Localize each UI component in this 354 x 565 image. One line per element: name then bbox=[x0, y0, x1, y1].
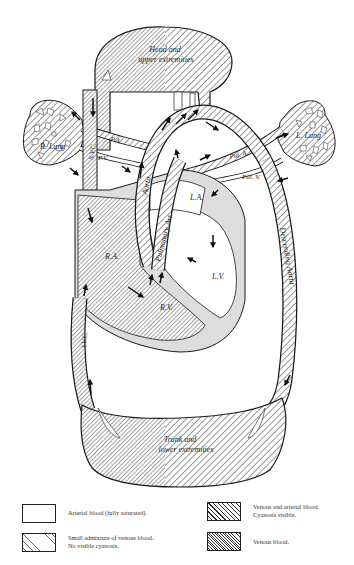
ivc-label: I.V.C. bbox=[80, 332, 89, 350]
legend-swatch-venous bbox=[207, 532, 241, 551]
legend-swatch-mixed bbox=[207, 502, 241, 521]
la-label: L.A. bbox=[189, 193, 203, 202]
legend-text-mixed: Venous and arterial blood. Cyanosis visi… bbox=[253, 503, 319, 518]
legend-text-arterial: Arterial blood (fully saturated). bbox=[68, 509, 147, 517]
rv-label: R.V. bbox=[159, 303, 173, 312]
legend-text-venous: Venous blood. bbox=[253, 538, 289, 546]
r-lung-label: R. Lung bbox=[39, 142, 65, 151]
left-lung: L. Lung bbox=[278, 101, 335, 166]
legend-item-mixed: Venous and arterial blood. Cyanosis visi… bbox=[207, 502, 319, 521]
right-lung: R. Lung bbox=[23, 100, 84, 165]
head-label: Head and bbox=[148, 45, 181, 54]
pv-label: P.V. bbox=[97, 154, 108, 162]
lv-label: L.V. bbox=[211, 272, 224, 281]
trunk-label-2: lower extremities bbox=[158, 445, 213, 454]
legend-swatch-arterial bbox=[22, 504, 56, 523]
legend: Arterial blood (fully saturated). Small … bbox=[0, 490, 354, 565]
legend-item-venous: Venous blood. bbox=[207, 532, 289, 551]
legend-item-arterial: Arterial blood (fully saturated). bbox=[22, 504, 147, 523]
trunk-region: Trunk and lower extremities bbox=[81, 398, 286, 487]
legend-text-small-admixture: Small admixture of venous blood. No visi… bbox=[68, 534, 154, 549]
circulation-diagram: Head and upper extremities R. Lung L. Lu… bbox=[0, 0, 354, 490]
legend-swatch-small-admixture bbox=[22, 533, 56, 552]
pul-v-label: Pul. V. bbox=[241, 173, 261, 181]
head-label-2: upper extremities bbox=[138, 55, 193, 64]
ra-label: R.A. bbox=[104, 252, 119, 261]
legend-item-small-admixture: Small admixture of venous blood. No visi… bbox=[22, 533, 154, 552]
trunk-label: Trunk and bbox=[164, 435, 198, 444]
pa-label: P.A. bbox=[109, 135, 123, 146]
l-lung-label: L. Lung bbox=[295, 131, 321, 140]
